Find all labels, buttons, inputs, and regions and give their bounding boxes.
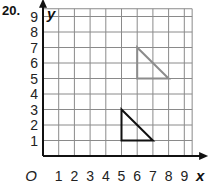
x-tick-label: 1 (55, 168, 63, 184)
y-tick-label: 2 (30, 117, 38, 133)
x-tick-label: 8 (165, 168, 173, 184)
x-tick-label: 2 (71, 168, 79, 184)
y-tick-label: 7 (30, 40, 38, 56)
coordinate-grid: 123456789123456789Oxy (0, 0, 209, 185)
y-tick-label: 8 (30, 24, 38, 40)
y-tick-label: 9 (30, 9, 38, 25)
x-axis-arrow-icon (199, 152, 208, 160)
y-axis-label: y (46, 5, 56, 22)
y-tick-label: 5 (30, 71, 38, 87)
x-axis-label: x (195, 167, 205, 184)
x-tick-label: 5 (118, 168, 126, 184)
x-tick-label: 3 (86, 168, 94, 184)
y-axis-arrow-icon (39, 0, 47, 8)
x-tick-label: 4 (102, 168, 110, 184)
y-tick-label: 4 (30, 86, 38, 102)
y-tick-label: 1 (30, 133, 38, 149)
origin-label: O (25, 167, 37, 184)
y-tick-label: 3 (30, 102, 38, 118)
x-tick-label: 7 (149, 168, 157, 184)
y-tick-label: 6 (30, 55, 38, 71)
x-tick-label: 9 (180, 168, 188, 184)
x-tick-label: 6 (133, 168, 141, 184)
